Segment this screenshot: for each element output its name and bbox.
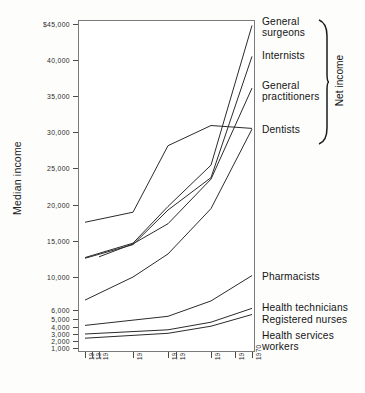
series-label-general-practitioners: General practitioners [262,80,319,103]
x-axis-tick-mark [235,352,236,358]
chart-figure: Median income $45,00040,00035,00030,0002… [0,0,365,393]
x-axis-tick-mark [85,352,86,358]
x-axis-tick-mark [211,352,212,358]
y-axis-tick-label: 4,000 [20,324,70,331]
x-axis-tick-label: 1970 [255,345,262,360]
y-axis-tick-label: 40,000 [20,57,70,64]
series-label-health-technicians: Health technicians [262,302,348,313]
x-axis-tick-mark [176,352,177,358]
x-axis-tick-mark [168,352,169,358]
y-axis-tick-label: 10,000 [20,274,70,281]
y-axis-title: Median income [11,128,23,228]
y-axis-tick-label: 2,000 [20,338,70,345]
y-axis-tick-label: 25,000 [20,165,70,172]
net-income-bracket [318,18,329,146]
y-axis-tick-label: 20,000 [20,202,70,209]
y-axis-tick-label: $45,000 [20,21,70,28]
series-label-dentists: Dentists [262,124,300,135]
series-label-internists: Internists [262,50,305,61]
x-axis-tick-mark [133,352,134,358]
series-label-registered-nurses: Registered nurses [262,314,347,325]
y-axis-tick-label: 15,000 [20,238,70,245]
x-axis-tick-mark [99,352,100,358]
y-axis-tick-label: 35,000 [20,93,70,100]
series-label-pharmacists: Pharmacists [262,271,320,282]
y-axis-tick-label: 1,000 [20,345,70,352]
plot-area [78,20,255,352]
net-income-label: Net income [334,38,345,124]
y-axis-tick-label: 5,000 [20,316,70,323]
y-axis-tick-label: 6,000 [20,307,70,314]
x-axis-tick-mark [252,352,253,358]
series-label-general-surgeons: General surgeons [262,16,305,39]
y-axis-tick-label: 3,000 [20,331,70,338]
x-axis-tick-mark [92,352,93,358]
y-axis-tick-label: 30,000 [20,129,70,136]
series-label-health-services-workers: Health services workers [262,330,334,353]
